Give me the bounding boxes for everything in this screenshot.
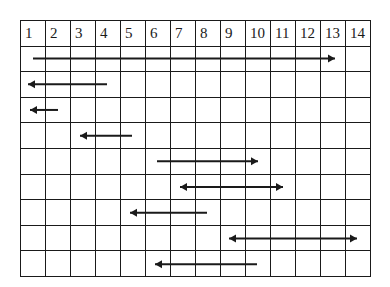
- grid-cell: [346, 174, 371, 200]
- grid-cell: [71, 97, 96, 123]
- grid-cell: [171, 251, 196, 277]
- grid-cell: [96, 148, 121, 174]
- grid-cell: [321, 148, 346, 174]
- grid-cell: [171, 225, 196, 251]
- grid-cell: [146, 123, 171, 149]
- grid-cell: [96, 46, 121, 72]
- grid-cell: [196, 148, 221, 174]
- column-header: 11: [271, 21, 296, 47]
- grid-cell: [46, 200, 71, 226]
- grid-cell: [221, 123, 246, 149]
- grid-cell: [196, 97, 221, 123]
- grid-cell: [71, 148, 96, 174]
- grid-cell: [46, 46, 71, 72]
- grid-cell: [296, 46, 321, 72]
- column-header: 8: [196, 21, 221, 47]
- grid-cell: [171, 46, 196, 72]
- grid-cell: [121, 174, 146, 200]
- grid-cell: [96, 225, 121, 251]
- grid-cell: [121, 148, 146, 174]
- grid-cell: [321, 174, 346, 200]
- grid-cell: [346, 46, 371, 72]
- grid-cell: [321, 97, 346, 123]
- grid-row: [21, 123, 371, 149]
- grid-cell: [96, 123, 121, 149]
- grid-cell: [121, 200, 146, 226]
- grid-cell: [321, 123, 346, 149]
- grid-cell: [21, 225, 46, 251]
- grid-cell: [121, 251, 146, 277]
- grid-cell: [21, 251, 46, 277]
- grid-cell: [346, 251, 371, 277]
- grid-cell: [121, 123, 146, 149]
- grid-cell: [271, 174, 296, 200]
- grid-cell: [96, 72, 121, 98]
- grid-cell: [96, 174, 121, 200]
- grid-cell: [146, 97, 171, 123]
- grid-row: [21, 200, 371, 226]
- grid-cell: [346, 72, 371, 98]
- grid-row: [21, 174, 371, 200]
- grid-cell: [146, 225, 171, 251]
- grid-cell: [296, 148, 321, 174]
- grid-cell: [171, 72, 196, 98]
- grid-cell: [246, 174, 271, 200]
- column-header: 3: [71, 21, 96, 47]
- grid-cell: [246, 97, 271, 123]
- column-header: 10: [246, 21, 271, 47]
- grid-cell: [171, 148, 196, 174]
- grid-cell: [21, 72, 46, 98]
- grid-cell: [21, 123, 46, 149]
- grid-cell: [71, 225, 96, 251]
- grid-cell: [146, 200, 171, 226]
- grid-cell: [296, 72, 321, 98]
- grid-row: [21, 97, 371, 123]
- grid-cell: [296, 225, 321, 251]
- grid-cell: [246, 123, 271, 149]
- grid-cell: [196, 46, 221, 72]
- column-header: 7: [171, 21, 196, 47]
- grid-cell: [196, 174, 221, 200]
- grid-cell: [71, 46, 96, 72]
- grid-cell: [171, 123, 196, 149]
- grid-cell: [271, 251, 296, 277]
- grid-cell: [271, 97, 296, 123]
- grid-cell: [271, 225, 296, 251]
- grid-row: [21, 225, 371, 251]
- grid-cell: [146, 46, 171, 72]
- column-header: 1: [21, 21, 46, 47]
- grid-cell: [71, 123, 96, 149]
- grid-cell: [146, 174, 171, 200]
- grid-cell: [221, 200, 246, 226]
- grid-cell: [246, 225, 271, 251]
- grid-cell: [171, 174, 196, 200]
- grid-cell: [296, 251, 321, 277]
- grid-cell: [196, 200, 221, 226]
- column-header: 13: [321, 21, 346, 47]
- grid-cell: [71, 251, 96, 277]
- grid-cell: [221, 251, 246, 277]
- grid-row: [21, 251, 371, 277]
- grid-cell: [121, 225, 146, 251]
- grid-cell: [21, 148, 46, 174]
- grid-cell: [96, 251, 121, 277]
- grid-cell: [121, 72, 146, 98]
- grid-cell: [296, 200, 321, 226]
- grid-cell: [146, 251, 171, 277]
- grid-cell: [221, 148, 246, 174]
- grid-cell: [171, 200, 196, 226]
- grid-cell: [146, 72, 171, 98]
- column-header: 12: [296, 21, 321, 47]
- column-header: 9: [221, 21, 246, 47]
- grid-cell: [96, 200, 121, 226]
- grid-cell: [21, 174, 46, 200]
- grid-cell: [246, 72, 271, 98]
- grid-cell: [46, 251, 71, 277]
- grid-cell: [196, 251, 221, 277]
- grid-cell: [46, 123, 71, 149]
- grid-cell: [21, 46, 46, 72]
- grid-cell: [46, 225, 71, 251]
- grid-cell: [271, 123, 296, 149]
- grid-cell: [321, 225, 346, 251]
- grid-cell: [221, 174, 246, 200]
